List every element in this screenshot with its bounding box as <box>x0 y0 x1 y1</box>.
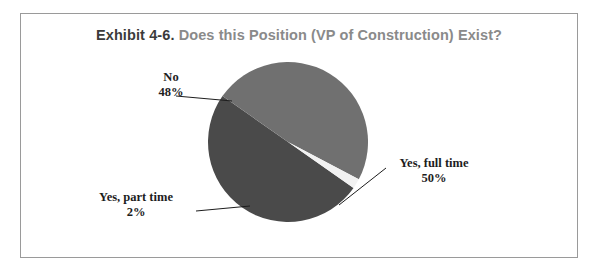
pie-label-no-value: 48% <box>133 85 209 100</box>
pie-label-yes-part-time-name: Yes, part time <box>99 190 173 204</box>
leader-line-yes-part-time <box>196 206 250 211</box>
exhibit-figure: Exhibit 4-6. Does this Position (VP of C… <box>0 0 598 275</box>
pie-label-yes-full-time-name: Yes, full time <box>399 156 468 170</box>
pie-label-yes-full-time: Yes, full time 50% <box>382 156 486 186</box>
pie-chart <box>0 0 598 275</box>
pie-label-no-name: No <box>163 70 178 84</box>
pie-label-yes-part-time-value: 2% <box>73 205 199 220</box>
pie-label-yes-full-time-value: 50% <box>382 171 486 186</box>
pie-label-yes-part-time: Yes, part time 2% <box>73 190 199 220</box>
pie-label-no: No 48% <box>133 70 209 100</box>
